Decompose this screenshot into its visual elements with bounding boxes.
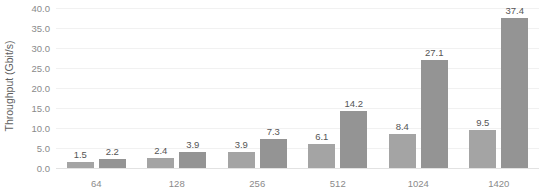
y-axis-tick-label: 0.0 — [37, 163, 50, 174]
bar-value-label: 7.3 — [267, 126, 280, 137]
x-axis-tick-label: 256 — [217, 176, 298, 191]
bar-wrapper: 2.4 — [147, 0, 174, 176]
bar[interactable] — [147, 158, 174, 168]
x-axis-tick-labels: 6412825651210241420 — [56, 176, 539, 191]
bar-wrapper: 9.5 — [469, 0, 496, 176]
bar-value-label: 2.4 — [154, 145, 167, 156]
x-axis-tick-label: 64 — [56, 176, 137, 191]
y-axis-tick-label: 35.0 — [32, 23, 51, 34]
bar[interactable] — [67, 162, 94, 168]
bar-chart: Throughput (Gbit/s) 40.035.030.025.020.0… — [0, 0, 543, 191]
bar-group: 3.97.3 — [217, 0, 298, 176]
x-axis-tick-label: 1420 — [459, 176, 540, 191]
bar-wrapper: 27.1 — [421, 0, 448, 176]
bar-wrapper: 1.5 — [67, 0, 94, 176]
bar[interactable] — [469, 130, 496, 168]
x-axis-tick-label: 1024 — [378, 176, 459, 191]
bar-group: 6.114.2 — [298, 0, 379, 176]
y-axis-tick-label: 10.0 — [32, 123, 51, 134]
bar-value-label: 8.4 — [396, 121, 409, 132]
bar-wrapper: 2.2 — [99, 0, 126, 176]
bar-wrapper: 3.9 — [179, 0, 206, 176]
bar-value-label: 3.9 — [235, 139, 248, 150]
y-axis-title-text: Throughput (Gbit/s) — [3, 40, 15, 131]
bar-value-label: 6.1 — [315, 131, 328, 142]
bar-value-label: 3.9 — [186, 139, 199, 150]
bar-wrapper: 6.1 — [308, 0, 335, 176]
y-axis-tick-label: 30.0 — [32, 43, 51, 54]
bar[interactable] — [260, 139, 287, 168]
bar[interactable] — [421, 60, 448, 168]
bar-group: 2.43.9 — [137, 0, 218, 176]
bar-value-label: 37.4 — [506, 5, 525, 16]
bar[interactable] — [308, 144, 335, 168]
bar-groups: 1.52.22.43.93.97.36.114.28.427.19.537.4 — [56, 0, 539, 176]
bar-wrapper: 8.4 — [389, 0, 416, 176]
bar[interactable] — [179, 152, 206, 168]
x-axis-tick-label: 128 — [137, 176, 218, 191]
x-axis-tick-label: 512 — [298, 176, 379, 191]
y-axis-tick-labels: 40.035.030.025.020.015.010.05.00.0 — [18, 0, 54, 176]
bar[interactable] — [501, 18, 528, 168]
bar-group: 8.427.1 — [378, 0, 459, 176]
bar-value-label: 9.5 — [476, 117, 489, 128]
y-axis-tick-label: 25.0 — [32, 63, 51, 74]
y-axis-tick-label: 20.0 — [32, 83, 51, 94]
plot-area: 1.52.22.43.93.97.36.114.28.427.19.537.4 — [56, 0, 539, 176]
bar[interactable] — [99, 159, 126, 168]
y-axis-title: Throughput (Gbit/s) — [0, 0, 18, 172]
y-axis-tick-label: 40.0 — [32, 3, 51, 14]
bar[interactable] — [228, 152, 255, 168]
y-axis-tick-label: 5.0 — [37, 143, 50, 154]
bar-wrapper: 14.2 — [340, 0, 367, 176]
bar[interactable] — [340, 111, 367, 168]
bar[interactable] — [389, 134, 416, 168]
bar-value-label: 1.5 — [74, 149, 87, 160]
y-axis-tick-label: 15.0 — [32, 103, 51, 114]
bar-value-label: 14.2 — [345, 98, 364, 109]
bar-wrapper: 37.4 — [501, 0, 528, 176]
bar-value-label: 27.1 — [425, 47, 444, 58]
bar-group: 9.537.4 — [459, 0, 540, 176]
bar-group: 1.52.2 — [56, 0, 137, 176]
bar-wrapper: 7.3 — [260, 0, 287, 176]
bar-value-label: 2.2 — [106, 146, 119, 157]
bar-wrapper: 3.9 — [228, 0, 255, 176]
